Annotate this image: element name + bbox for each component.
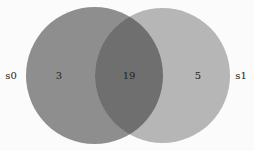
set-s0-label: s0 — [5, 70, 17, 81]
s0-only-count: 3 — [56, 70, 62, 81]
set-s1-label: s1 — [235, 70, 247, 81]
s1-only-count: 5 — [195, 70, 201, 81]
venn-diagram: s0 3 19 5 s1 — [0, 0, 254, 151]
intersection-count: 19 — [123, 70, 136, 81]
